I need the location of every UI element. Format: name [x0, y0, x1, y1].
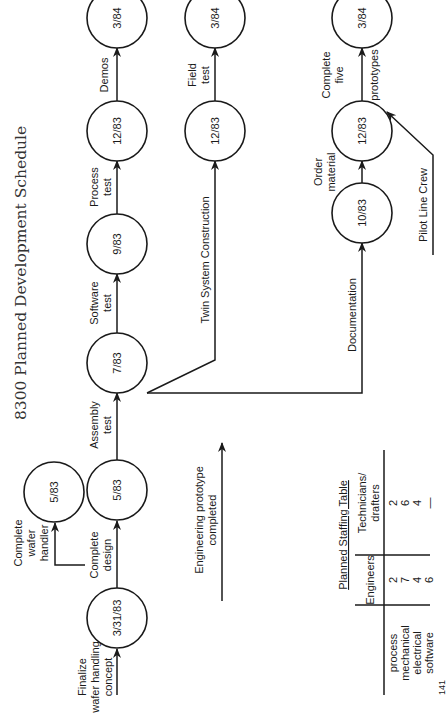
node-5-83-design: 5/83: [87, 460, 147, 520]
svg-text:12/83: 12/83: [209, 117, 221, 145]
staffing-table: Planned Staffing Table Engineers Technic…: [337, 450, 435, 695]
schedule-diagram: 8300 Planned Development Schedule Finali…: [0, 0, 448, 715]
label-design-1: Complete: [88, 531, 100, 578]
cell-technicians: 6: [399, 500, 411, 506]
label-prototypes-1: Complete: [320, 51, 332, 98]
label-wafer-3: handler: [38, 524, 50, 561]
label-engineering-2: completed: [206, 495, 218, 546]
node-3-84-pilot: 3/84: [332, 0, 392, 48]
cell-technicians: —: [423, 498, 435, 509]
node-3-31-83: 3/31/83: [87, 588, 147, 648]
label-finalize-1: Finalize: [76, 658, 88, 696]
cell-technicians: 2: [387, 500, 399, 506]
node-3-84: 3/84: [87, 0, 147, 48]
node-9-83: 9/83: [87, 214, 147, 274]
svg-text:3/84: 3/84: [111, 7, 123, 28]
label-process-2: test: [101, 178, 113, 196]
label-prototypes-2: five: [333, 66, 345, 83]
header-engineers: Engineers: [364, 555, 376, 605]
label-finalize-3: concept: [102, 658, 114, 697]
row-label: electrical: [411, 631, 423, 674]
svg-text:5/83: 5/83: [111, 479, 123, 500]
cell-engineers: 7: [399, 577, 411, 583]
header-drafters: drafters: [369, 484, 381, 522]
header-technicians: Technicians/: [356, 472, 368, 533]
label-assembly-1: Assembly: [88, 401, 100, 449]
label-prototypes-3: prototypes: [368, 49, 380, 101]
label-wafer-1: Complete: [12, 519, 24, 566]
cell-engineers: 2: [387, 577, 399, 583]
label-finalize-2: wafer handling: [89, 641, 101, 714]
page-marker: 141: [437, 680, 447, 695]
label-software-2: test: [101, 294, 113, 312]
row-label: mechanical: [399, 625, 411, 681]
cell-technicians: 4: [411, 500, 423, 506]
node-7-83: 7/83: [87, 333, 147, 393]
node-12-83-twin: 12/83: [185, 101, 245, 161]
node-5-83-wafer: 5/83: [24, 462, 84, 522]
label-field-2: test: [199, 66, 211, 84]
svg-text:9/83: 9/83: [111, 233, 123, 254]
row-label: software: [423, 632, 435, 674]
label-twin-system: Twin System Construction: [199, 196, 211, 323]
svg-text:12/83: 12/83: [111, 117, 123, 145]
label-order-2: material: [325, 152, 337, 191]
label-process-1: Process: [88, 167, 100, 207]
svg-text:10/83: 10/83: [356, 199, 368, 227]
svg-text:5/83: 5/83: [48, 481, 60, 502]
svg-text:12/83: 12/83: [356, 117, 368, 145]
label-engineering-1: Engineering prototype: [193, 466, 205, 574]
svg-text:7/83: 7/83: [111, 352, 123, 373]
arrow-wafer-handler: [55, 523, 85, 565]
node-12-83: 12/83: [87, 101, 147, 161]
label-assembly-2: test: [101, 416, 113, 434]
svg-text:3/31/83: 3/31/83: [111, 600, 123, 637]
label-software-1: Software: [88, 281, 100, 324]
label-design-2: design: [101, 539, 113, 571]
staffing-table-title: Planned Staffing Table: [337, 480, 349, 590]
cell-engineers: 6: [423, 577, 435, 583]
row-label: process: [387, 633, 399, 672]
arrow-documentation: [147, 243, 362, 393]
svg-text:3/84: 3/84: [209, 7, 221, 28]
node-12-83-pilot: 12/83: [332, 101, 392, 161]
label-field-1: Field: [186, 63, 198, 87]
svg-text:3/84: 3/84: [356, 7, 368, 28]
label-wafer-2: wafer: [25, 529, 37, 557]
label-pilot-line-crew: Pilot Line Crew: [417, 168, 429, 242]
node-10-83: 10/83: [332, 183, 392, 243]
cell-engineers: 4: [411, 577, 423, 583]
label-documentation: Documentation: [346, 278, 358, 352]
label-demos: Demos: [98, 57, 110, 92]
diagram-title: 8300 Planned Development Schedule: [12, 126, 30, 420]
node-3-84-field: 3/84: [185, 0, 245, 48]
label-order-1: Order: [312, 158, 324, 186]
